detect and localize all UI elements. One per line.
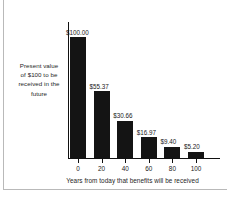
x-axis-tick (172, 159, 173, 163)
bar (141, 137, 157, 158)
x-axis-tick-label: 0 (66, 165, 90, 172)
x-axis-line (68, 158, 220, 159)
y-axis-line (68, 22, 69, 159)
y-axis-label-line-2: of $100 to be (8, 70, 70, 79)
bar-chart-plot: Present value of $100 to be received in … (0, 0, 230, 198)
bar-value-label: $55.37 (90, 83, 130, 90)
bar (117, 121, 133, 158)
x-axis-tick-label: 100 (184, 165, 208, 172)
x-axis-title: Years from today that benefits will be r… (40, 177, 225, 184)
x-axis-tick (149, 159, 150, 163)
x-axis-tick-label: 80 (160, 165, 184, 172)
x-axis-tick (102, 159, 103, 163)
bar (164, 147, 180, 158)
bar-value-label: $30.66 (113, 112, 153, 119)
bar (188, 152, 204, 158)
y-axis-label-line-4: future (8, 89, 70, 98)
bar (94, 91, 110, 158)
y-axis-label: Present value of $100 to be received in … (8, 61, 70, 98)
y-axis-label-line-3: received in the (8, 79, 70, 88)
x-axis-tick (78, 159, 79, 163)
x-axis-tick (196, 159, 197, 163)
bar-value-label: $16.97 (137, 129, 177, 136)
y-axis-label-line-1: Present value (8, 61, 70, 70)
chart-screenshot: Present value of $100 to be received in … (0, 0, 230, 198)
bar (70, 37, 86, 158)
x-axis-tick-label: 20 (90, 165, 114, 172)
x-axis-tick-label: 60 (137, 165, 161, 172)
x-axis-tick (125, 159, 126, 163)
x-axis-tick-label: 40 (113, 165, 137, 172)
bar-value-label: $5.20 (184, 143, 224, 150)
bar-value-label: $100.00 (66, 29, 106, 36)
